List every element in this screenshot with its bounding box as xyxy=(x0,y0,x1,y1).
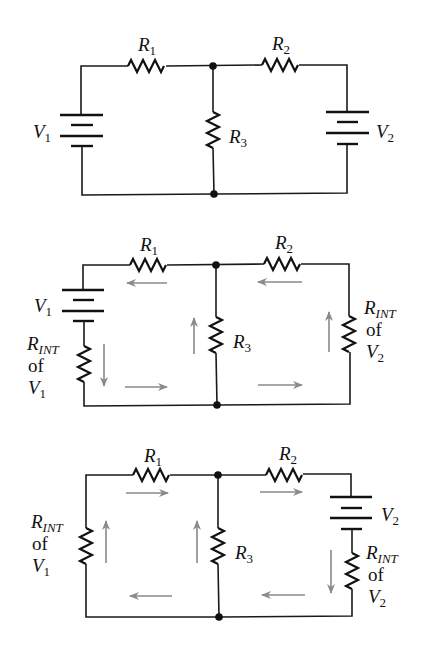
label-v2: V2 xyxy=(381,505,399,527)
circuit-figure: R1 R2 R3 V1 V2 R1 R2 R3 V1 RINT of V1 RI… xyxy=(0,0,425,650)
label-rint-v1: RINT xyxy=(31,512,63,534)
label-rint-v2-of: of xyxy=(366,320,382,339)
wire xyxy=(81,66,128,114)
label-r2: R2 xyxy=(279,444,297,466)
label-rint-v1-source: V1 xyxy=(32,556,50,578)
label-v1: V1 xyxy=(33,122,51,144)
battery-v1 xyxy=(60,115,103,146)
circuit-diagrams-svg xyxy=(0,0,425,650)
wire xyxy=(301,264,349,316)
resistor-r3 xyxy=(207,112,219,148)
wire xyxy=(83,265,130,290)
junction-node xyxy=(215,613,223,621)
label-rint-v2: RINT xyxy=(364,298,396,320)
label-rint-v1-of: of xyxy=(28,356,44,375)
resistor-r2 xyxy=(262,59,298,71)
resistor-r2 xyxy=(266,469,302,481)
wire xyxy=(213,148,214,194)
battery-v1 xyxy=(62,290,104,321)
wire xyxy=(86,475,133,528)
label-v2: V2 xyxy=(376,122,394,144)
label-r3: R3 xyxy=(229,127,247,149)
label-r2: R2 xyxy=(275,233,293,255)
resistor-rint-v1 xyxy=(78,346,90,382)
wire xyxy=(303,474,351,497)
circuit-2 xyxy=(62,258,355,409)
label-v1: V1 xyxy=(34,296,52,318)
label-rint-v1-source: V1 xyxy=(28,378,46,400)
resistor-r1 xyxy=(133,469,169,481)
resistor-r3 xyxy=(212,528,224,564)
label-rint-v2-source: V2 xyxy=(368,587,386,609)
resistor-r2 xyxy=(264,258,300,270)
label-rint-v1: RINT xyxy=(27,334,59,356)
label-r1: R1 xyxy=(140,235,158,257)
junction-node xyxy=(214,471,222,479)
battery-v2 xyxy=(326,112,369,144)
wire xyxy=(216,353,217,405)
resistor-r1 xyxy=(130,259,166,271)
wire xyxy=(218,564,219,617)
label-rint-v2-source: V2 xyxy=(366,342,384,364)
label-r1: R1 xyxy=(138,35,156,57)
battery-v2 xyxy=(330,497,372,529)
junction-node xyxy=(213,401,221,409)
label-rint-v1-of: of xyxy=(32,534,48,553)
resistor-rint-v2 xyxy=(346,553,358,589)
circuit-3 xyxy=(80,469,372,621)
junction-node xyxy=(209,62,217,70)
resistor-r1 xyxy=(128,60,164,72)
label-rint-v2-of: of xyxy=(368,565,384,584)
wire xyxy=(299,65,347,112)
junction-node xyxy=(210,190,218,198)
label-rint-v2: RINT xyxy=(366,543,398,565)
circuit-1 xyxy=(60,59,369,198)
label-r2: R2 xyxy=(272,34,290,56)
resistor-rint-v2 xyxy=(343,316,355,352)
resistor-rint-v1 xyxy=(80,528,92,564)
resistor-r3 xyxy=(210,317,222,353)
junction-node xyxy=(212,261,220,269)
label-r3: R3 xyxy=(233,332,251,354)
label-r1: R1 xyxy=(144,446,162,468)
label-r3: R3 xyxy=(235,543,253,565)
